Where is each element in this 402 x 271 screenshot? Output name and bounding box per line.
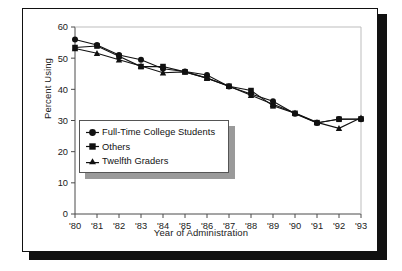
legend-item-twelfth-graders: Twelfth Graders (86, 154, 223, 169)
y-axis-tick-label: 0 (63, 209, 68, 219)
y-axis-title: Percent Using (42, 39, 53, 139)
legend-item-others: Others (86, 140, 223, 155)
y-axis-tick-label: 40 (58, 85, 68, 95)
figure-frame: 0102030405060'80'81'82'83'84'85'86'87'88… (22, 8, 378, 252)
circle-marker-icon (86, 126, 99, 139)
series-line-circle (75, 39, 361, 123)
chart-legend: Full-Time College Students Others (79, 120, 229, 173)
y-axis-tick-label: 60 (58, 22, 68, 32)
y-axis-tick-label: 10 (58, 178, 68, 188)
legend-label: Full-Time College Students (102, 127, 215, 137)
legend-label: Others (102, 142, 130, 152)
data-point-square (336, 116, 342, 122)
y-axis-tick-label: 50 (58, 54, 68, 64)
data-point-square (94, 43, 100, 49)
legend-label: Twelfth Graders (102, 156, 168, 166)
figure-root: 0102030405060'80'81'82'83'84'85'86'87'88… (0, 0, 402, 271)
y-axis-tick-label: 30 (58, 116, 68, 126)
data-point-circle (72, 36, 78, 42)
legend-item-full-time-college-students: Full-Time College Students (86, 125, 223, 140)
triangle-marker-icon (86, 155, 99, 168)
y-axis-tick-label: 20 (58, 147, 68, 157)
x-axis-title: Year of Administration (23, 227, 379, 238)
data-point-square (160, 64, 166, 70)
data-point-circle (138, 57, 144, 63)
square-marker-icon (86, 140, 99, 153)
